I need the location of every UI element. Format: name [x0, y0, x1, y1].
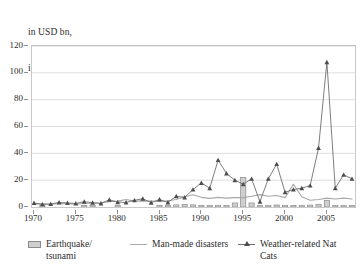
y-tick-mark: [24, 179, 28, 180]
marker-triangle: [258, 199, 263, 203]
plot-svg: [32, 46, 355, 207]
bar-earthquake-tsunami: [274, 205, 279, 207]
marker-triangle: [274, 162, 279, 166]
x-tick-label: 1975: [66, 214, 84, 223]
bar-earthquake-tsunami: [224, 206, 229, 207]
x-tick-label: 1995: [233, 214, 251, 223]
x-tick-mark: [75, 210, 76, 214]
y-tick-label: 60: [14, 121, 23, 130]
line-weather-related-nat-cats: [34, 62, 352, 204]
bar-earthquake-tsunami: [282, 206, 287, 207]
bar-earthquake-tsunami: [165, 206, 170, 207]
marker-triangle: [207, 186, 212, 190]
x-tick-label: 2000: [275, 214, 293, 223]
y-tick-mark: [24, 99, 28, 100]
bar-earthquake-tsunami: [308, 205, 313, 207]
bar-earthquake-tsunami: [207, 206, 212, 207]
marker-triangle: [341, 172, 346, 176]
marker-triangle: [140, 196, 145, 200]
y-tick-mark: [24, 72, 28, 73]
legend-label: Earthquake/ tsunami: [46, 238, 92, 262]
bar-earthquake-tsunami: [333, 206, 338, 207]
marker-triangle: [216, 158, 221, 162]
bar-earthquake-tsunami: [349, 206, 354, 207]
y-tick-mark: [24, 152, 28, 153]
bar-earthquake-tsunami: [299, 206, 304, 207]
marker-triangle: [199, 180, 204, 184]
x-tick-mark: [33, 210, 34, 214]
x-tick-label: 2005: [317, 214, 335, 223]
y-axis: 020406080100120: [0, 38, 28, 216]
x-tick-mark: [242, 210, 243, 214]
bar-earthquake-tsunami: [190, 205, 195, 207]
y-tick-label: 40: [14, 148, 23, 157]
x-tick-label: 1990: [191, 214, 209, 223]
bar-earthquake-tsunami: [115, 206, 120, 207]
bar-earthquake-tsunami: [82, 206, 87, 207]
bar-earthquake-tsunami: [291, 206, 296, 207]
bar-earthquake-tsunami: [232, 203, 237, 207]
y-tick-mark: [24, 206, 28, 207]
bar-earthquake-tsunami: [324, 200, 329, 207]
x-tick-mark: [117, 210, 118, 214]
x-tick-mark: [159, 210, 160, 214]
bar-earthquake-tsunami: [182, 204, 187, 207]
line-triangle-swatch-icon: [238, 241, 255, 248]
legend-label: Weather-related Nat Cats: [260, 238, 336, 262]
x-axis: 19701975198019851990199520002005: [0, 210, 360, 228]
bar-swatch-icon: [28, 241, 41, 248]
x-tick-label: 1985: [150, 214, 168, 223]
marker-triangle: [157, 197, 162, 201]
bar-earthquake-tsunami: [341, 206, 346, 207]
bar-earthquake-tsunami: [249, 203, 254, 207]
marker-triangle: [324, 60, 329, 64]
marker-triangle: [224, 171, 229, 175]
x-tick-label: 1980: [108, 214, 126, 223]
chart-legend: Earthquake/ tsunamiMan-made disastersWea…: [28, 238, 360, 272]
legend-item[interactable]: Weather-related Nat Cats: [238, 238, 336, 262]
bar-earthquake-tsunami: [257, 206, 262, 207]
line-swatch-icon: [130, 241, 147, 248]
x-tick-mark: [200, 210, 201, 214]
x-tick-mark: [326, 210, 327, 214]
bar-earthquake-tsunami: [157, 205, 162, 207]
x-tick-label: 1970: [24, 214, 42, 223]
weather-nat-cat-losses-chart: in USD bn, indexed to 2007 0204060801001…: [0, 0, 360, 275]
chart-title-line-1: in USD bn,: [28, 26, 91, 38]
bar-earthquake-tsunami: [90, 206, 95, 207]
marker-triangle: [308, 183, 313, 187]
plot-area: [31, 45, 356, 208]
marker-triangle: [249, 176, 254, 180]
bar-earthquake-tsunami: [316, 204, 321, 207]
legend-label: Man-made disasters: [152, 238, 228, 250]
bar-earthquake-tsunami: [199, 205, 204, 207]
y-tick-label: 20: [14, 175, 23, 184]
marker-triangle: [107, 197, 112, 201]
bar-earthquake-tsunami: [266, 206, 271, 207]
y-tick-label: 100: [10, 67, 24, 76]
legend-item[interactable]: Man-made disasters: [130, 238, 228, 250]
bar-earthquake-tsunami: [174, 205, 179, 207]
marker-triangle: [266, 176, 271, 180]
y-tick-label: 120: [10, 41, 24, 50]
marker-triangle: [316, 146, 321, 150]
x-tick-mark: [284, 210, 285, 214]
marker-triangle: [32, 201, 36, 205]
y-tick-mark: [24, 45, 28, 46]
y-tick-label: 80: [14, 94, 23, 103]
legend-item[interactable]: Earthquake/ tsunami: [28, 238, 92, 262]
marker-triangle: [333, 186, 338, 190]
bar-earthquake-tsunami: [216, 206, 221, 207]
marker-triangle: [350, 176, 355, 180]
y-tick-mark: [24, 126, 28, 127]
